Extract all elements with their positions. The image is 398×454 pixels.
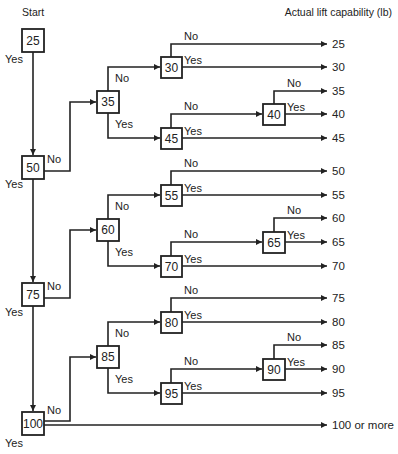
no-label-45: No bbox=[184, 100, 198, 112]
svg-text:40: 40 bbox=[267, 108, 281, 122]
svg-text:85: 85 bbox=[101, 350, 115, 364]
decision-node-75: 75 bbox=[22, 283, 44, 306]
yes-label-30: Yes bbox=[184, 54, 202, 66]
yes-label-65: Yes bbox=[287, 229, 305, 241]
svg-text:80: 80 bbox=[165, 316, 179, 330]
outcome-70: 70 bbox=[332, 260, 345, 272]
outcome-50: 50 bbox=[332, 165, 345, 177]
yes-label-70: Yes bbox=[184, 253, 202, 265]
decision-node-80: 80 bbox=[161, 312, 182, 333]
no-label-90: No bbox=[287, 331, 301, 343]
yes-label-55: Yes bbox=[184, 182, 202, 194]
svg-text:25: 25 bbox=[26, 34, 40, 48]
svg-text:90: 90 bbox=[267, 363, 281, 377]
decision-node-30: 30 bbox=[161, 57, 182, 78]
no-label-70: No bbox=[184, 228, 198, 240]
outcome-60: 60 bbox=[332, 212, 345, 224]
outcome-75: 75 bbox=[332, 292, 345, 304]
decision-node-50: 50 bbox=[22, 156, 44, 179]
svg-text:55: 55 bbox=[165, 189, 179, 203]
svg-text:100: 100 bbox=[23, 417, 43, 431]
yes-label-25: Yes bbox=[5, 53, 23, 65]
outcome-80: 80 bbox=[332, 316, 345, 328]
no-label-80: No bbox=[184, 284, 198, 296]
lift-capability-flowchart: Start Actual lift capability (lb) Yes Ye… bbox=[0, 0, 398, 454]
outcome-30: 30 bbox=[332, 61, 345, 73]
yes-label-40: Yes bbox=[287, 101, 305, 113]
outcome-90: 90 bbox=[332, 363, 345, 375]
decision-node-85: 85 bbox=[97, 346, 119, 368]
svg-text:35: 35 bbox=[101, 95, 115, 109]
decision-node-95: 95 bbox=[161, 383, 182, 404]
yes-label-80: Yes bbox=[184, 309, 202, 321]
no-label-60: No bbox=[115, 200, 129, 212]
decision-node-60: 60 bbox=[97, 219, 119, 241]
yes-label-85: Yes bbox=[115, 373, 133, 385]
decision-node-55: 55 bbox=[161, 185, 182, 206]
decision-node-40: 40 bbox=[263, 104, 285, 125]
svg-text:95: 95 bbox=[165, 387, 179, 401]
svg-text:30: 30 bbox=[165, 61, 179, 75]
yes-label-60: Yes bbox=[115, 246, 133, 258]
svg-text:60: 60 bbox=[101, 223, 115, 237]
outcome-25: 25 bbox=[332, 38, 345, 50]
outcome-85: 85 bbox=[332, 339, 345, 351]
svg-text:45: 45 bbox=[165, 132, 179, 146]
yes-label-75: Yes bbox=[5, 306, 23, 318]
yes-label-45: Yes bbox=[184, 125, 202, 137]
svg-text:70: 70 bbox=[165, 260, 179, 274]
svg-text:75: 75 bbox=[26, 288, 40, 302]
decision-node-25: 25 bbox=[22, 29, 44, 52]
no-label-85: No bbox=[115, 327, 129, 339]
decision-node-35: 35 bbox=[97, 91, 119, 113]
no-label-95: No bbox=[184, 355, 198, 367]
outcome-40: 40 bbox=[332, 108, 345, 120]
no-label-35: No bbox=[115, 72, 129, 84]
outcome-35: 35 bbox=[332, 85, 345, 97]
no-label-75: No bbox=[47, 280, 61, 292]
no-label-30: No bbox=[184, 30, 198, 42]
svg-text:65: 65 bbox=[267, 236, 281, 250]
yes-label-50: Yes bbox=[5, 178, 23, 190]
no-label-100: No bbox=[47, 404, 61, 416]
no-label-50: No bbox=[47, 153, 61, 165]
decision-node-45: 45 bbox=[161, 128, 182, 149]
decision-node-65: 65 bbox=[263, 232, 285, 253]
decision-node-100: 100 bbox=[22, 412, 44, 435]
start-label: Start bbox=[22, 6, 44, 18]
outcome-55: 55 bbox=[332, 189, 345, 201]
decision-node-70: 70 bbox=[161, 256, 182, 277]
yes-label-35: Yes bbox=[115, 118, 133, 130]
outcome-45: 45 bbox=[332, 132, 345, 144]
output-header: Actual lift capability (lb) bbox=[285, 6, 392, 18]
outcome-95: 95 bbox=[332, 387, 345, 399]
yes-label-90: Yes bbox=[287, 356, 305, 368]
decision-node-90: 90 bbox=[263, 359, 285, 380]
outcome-labels: 25 30 35 40 45 50 55 60 65 70 75 80 85 9… bbox=[332, 38, 394, 431]
svg-text:50: 50 bbox=[26, 161, 40, 175]
outcome-100-or-more: 100 or more bbox=[332, 419, 394, 431]
no-label-40: No bbox=[287, 77, 301, 89]
outcome-65: 65 bbox=[332, 236, 345, 248]
no-label-65: No bbox=[287, 204, 301, 216]
yes-label-100: Yes bbox=[5, 437, 23, 449]
yes-label-95: Yes bbox=[184, 380, 202, 392]
no-label-55: No bbox=[184, 157, 198, 169]
